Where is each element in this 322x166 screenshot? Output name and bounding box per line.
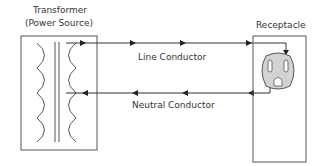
receptacle-title: Receptacle <box>256 21 306 30</box>
outlet-icon <box>262 53 294 89</box>
primary-coil-icon <box>37 43 45 142</box>
transformer-title: Transformer <box>33 6 87 15</box>
line-conductor-label: Line Conductor <box>138 53 206 62</box>
transformer-core-icon <box>55 42 59 142</box>
neutral-conductor-label: Neutral Conductor <box>132 101 215 110</box>
transformer-subtitle: (Power Source) <box>25 19 93 28</box>
